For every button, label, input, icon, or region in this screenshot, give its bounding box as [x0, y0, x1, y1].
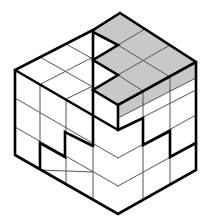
cube-puzzle-drawing	[0, 0, 221, 222]
figure: Isometric cube puzzle	[0, 0, 221, 222]
